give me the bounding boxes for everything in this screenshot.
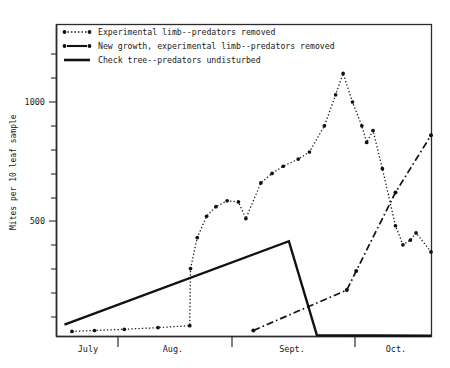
data-point [365, 141, 369, 145]
data-point [393, 190, 397, 194]
legend-swatch-dot-left [63, 30, 67, 34]
data-point [270, 172, 274, 176]
x-tick-label-aug: Aug. [163, 344, 183, 354]
data-point [259, 181, 263, 185]
legend-swatch-dashdot-dot-left [63, 44, 67, 48]
data-point [371, 129, 375, 133]
data-point [195, 236, 199, 240]
data-point [341, 72, 345, 76]
data-point [381, 167, 385, 171]
legend-swatch-dashdot-dot-right [88, 44, 92, 48]
data-point [70, 330, 74, 334]
data-point [360, 124, 364, 128]
data-point [354, 269, 358, 273]
data-point [189, 267, 193, 271]
data-point [225, 199, 229, 203]
data-point [429, 250, 433, 254]
data-point [409, 238, 413, 242]
legend-entry-new-growth: New growth, experimental limb--predators… [63, 41, 335, 51]
x-tick-label-oct: Oct. [386, 344, 406, 354]
data-point [429, 133, 433, 137]
chart-canvas: 1000 500 Mites per 10 leaf sample July A… [0, 0, 450, 368]
data-point [205, 214, 209, 218]
data-point [296, 157, 300, 161]
data-point [394, 224, 398, 228]
data-point [214, 205, 218, 209]
data-point [188, 324, 192, 328]
data-point [334, 93, 338, 97]
y-tick-label-500: 500 [30, 216, 45, 226]
data-point [345, 288, 349, 292]
data-point [414, 231, 418, 235]
legend-swatch-dot-right [88, 30, 92, 34]
legend-label-new-growth: New growth, experimental limb--predators… [98, 41, 335, 51]
legend-label-check-tree: Check tree--predators undisturbed [98, 55, 261, 65]
x-tick-label-sept: Sept. [279, 344, 305, 354]
y-tick-label-1000: 1000 [25, 97, 45, 107]
legend-label-experimental-limb: Experimental limb--predators removed [98, 27, 276, 37]
data-point [122, 327, 126, 331]
x-tick-label-july: July [78, 344, 98, 354]
data-point [401, 243, 405, 247]
data-point [156, 326, 160, 330]
data-point [244, 217, 248, 221]
data-point [351, 100, 355, 104]
data-point [323, 124, 327, 128]
data-point [237, 200, 241, 204]
data-point [93, 329, 97, 333]
data-point [281, 164, 285, 168]
chart-figure: 1000 500 Mites per 10 leaf sample July A… [0, 0, 450, 368]
data-point [308, 150, 312, 154]
data-point [251, 328, 255, 332]
y-axis-title: Mites per 10 leaf sample [9, 114, 18, 230]
